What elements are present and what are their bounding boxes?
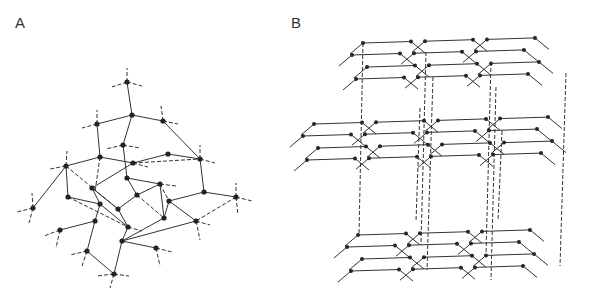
bond [363,42,411,44]
bond [414,132,427,143]
bond [535,38,549,50]
bond [345,235,358,246]
bond [314,123,362,125]
bond [476,50,524,52]
bond [338,271,351,282]
bond [438,119,486,121]
interlayer-connector [486,62,491,255]
bond [356,78,404,80]
bond [354,67,367,78]
bond [530,230,544,242]
bond [343,79,356,90]
interlayer-connector [416,108,420,221]
bond [534,254,548,266]
bond [524,50,538,62]
interlayer-connector [560,73,566,266]
bond [418,156,431,167]
bond [458,243,471,254]
bond [362,258,410,260]
bond [473,255,486,266]
bond [471,242,519,244]
bond [424,256,472,258]
panel-b-graphite-layers [0,0,596,302]
bond [486,254,534,256]
bond [541,153,555,165]
bond [469,231,482,242]
bond [409,244,457,246]
bond [351,270,399,272]
bond [363,122,376,133]
bond [334,247,347,258]
bond [352,54,400,56]
bond [352,134,365,145]
interlayer-connector [491,87,496,280]
bond [416,65,429,76]
bond [301,124,314,135]
bond [407,233,420,244]
bond [400,269,413,280]
bond [429,64,477,65]
interlayer-connector [498,131,502,221]
bond [462,267,475,278]
bond [401,53,414,64]
bond [318,147,366,149]
interlayer-connector [421,52,426,245]
bond [500,117,548,119]
interlayer-connector [427,77,433,270]
bond [474,39,487,50]
bond [491,143,504,154]
bond [303,135,351,137]
bond [476,131,489,142]
bond [307,159,355,161]
bond [376,121,424,123]
bond [467,75,480,86]
bond [491,62,539,64]
bond [380,145,428,147]
bond [493,153,541,155]
bond [411,257,424,268]
bond [290,136,303,147]
bond [523,266,537,278]
bond [347,246,395,248]
bond [414,52,462,54]
bond [367,146,380,157]
bond [350,43,363,54]
bond [358,234,406,236]
bond [412,41,425,52]
bond [405,77,418,88]
bond [365,133,413,135]
bond [489,129,537,131]
bond [539,62,553,74]
bond [413,268,461,270]
bond [420,232,468,234]
bond [305,148,318,159]
bond [480,74,528,76]
bond [537,129,551,141]
bond [294,160,307,171]
bond [478,63,491,74]
bond [504,141,552,143]
bond [487,38,535,40]
bond [528,74,542,86]
bond [369,157,417,159]
bond [367,66,415,68]
bond [475,266,523,268]
bond [425,40,473,42]
bond [463,51,476,62]
bond [396,245,409,256]
bond [480,155,493,166]
bond [356,158,369,169]
bond [427,131,475,133]
bond [482,230,530,232]
bond [442,143,490,145]
bond [339,55,352,66]
bond [349,259,362,270]
bond [431,155,479,157]
bond [519,242,533,254]
bond [548,117,562,129]
